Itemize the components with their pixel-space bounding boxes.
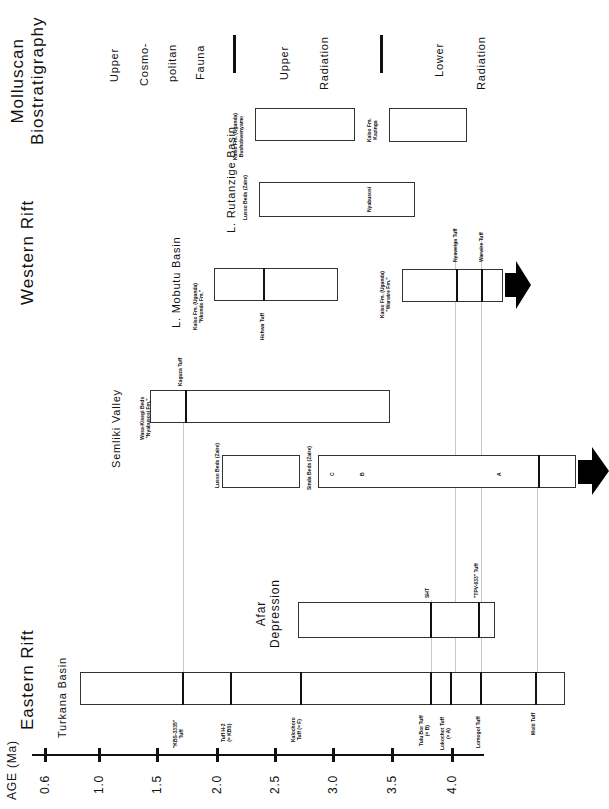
afar-title: Afar Depression bbox=[255, 579, 283, 648]
sinda-continuation-arrow bbox=[578, 460, 592, 484]
zone-boundary-2 bbox=[380, 35, 383, 73]
tick-label: 3.5 bbox=[386, 775, 400, 794]
axis-tick bbox=[216, 748, 219, 762]
rutanzige-lower-label: Kaiso Fm. Kazinga bbox=[367, 118, 379, 142]
marker-kaguza bbox=[185, 390, 187, 423]
semliki-sinda-column: C B A bbox=[318, 455, 576, 488]
marker-lokochot bbox=[450, 672, 452, 705]
marker-tulu-bor bbox=[430, 672, 432, 705]
turkana-label-moiti: Moiti Tuff bbox=[531, 713, 537, 735]
eastern-rift-title: Eastern Rift bbox=[18, 629, 38, 730]
zone-lower-radiation-line1: Lower bbox=[433, 43, 446, 77]
mobutu-lower-label: Kaiso Fm. (Uganda) "Warwire Fm." bbox=[380, 271, 392, 318]
axis-tick bbox=[44, 748, 47, 762]
rutanzige-lusso-label: Lusso Beds (Zaire) bbox=[243, 175, 249, 220]
tick-label: 1.5 bbox=[151, 775, 165, 794]
zone-upper-cosmopolitan-line4: Fauna bbox=[194, 45, 207, 80]
zone-upper-cosmopolitan-line2: Cosmo- bbox=[138, 43, 151, 86]
tick-label: 0.6 bbox=[39, 775, 53, 794]
tick-label: 2.5 bbox=[269, 775, 283, 794]
axis-tick bbox=[391, 748, 394, 762]
rutanzige-lusso-column bbox=[259, 182, 415, 217]
rutanzige-upper-label: Kaiso Fm. (Uganda) Bushobwenyamo bbox=[233, 113, 245, 160]
correlation-line-1.5 bbox=[183, 420, 184, 676]
zone-upper-radiation-line1: Upper bbox=[278, 46, 291, 80]
sinda-letter-b: B bbox=[360, 472, 366, 476]
mobutu-title: L. Mobutu Basin bbox=[170, 237, 183, 329]
turkana-label-tulu-bor: Tulu Bor Tuff (= B) bbox=[419, 715, 431, 746]
semliki-kaguza-label: Kaguza Tuff bbox=[178, 358, 184, 386]
semliki-lusso-column bbox=[222, 455, 300, 488]
axis-tick bbox=[274, 748, 277, 762]
axis-tick bbox=[156, 748, 159, 762]
turkana-label-kbs3335: "KBS-3335" Tuff bbox=[173, 720, 185, 748]
marker-kbs3335 bbox=[182, 672, 184, 705]
tick-label: 2.0 bbox=[211, 775, 225, 794]
axis-tick bbox=[332, 748, 335, 762]
axis-tick bbox=[451, 748, 454, 762]
axis-tick bbox=[98, 748, 101, 762]
marker-lomogol bbox=[480, 672, 482, 705]
marker-tpv033 bbox=[478, 602, 480, 638]
tick-label: 3.0 bbox=[327, 775, 341, 794]
turkana-basin-title: Turkana Basin bbox=[56, 657, 69, 738]
zone-upper-radiation-line2: Radiation bbox=[318, 36, 331, 90]
afar-column bbox=[298, 602, 495, 638]
mobutu-warwire-label: Warwire Tuff bbox=[479, 232, 485, 262]
semliki-wasa-column bbox=[150, 390, 390, 423]
molluscan-title-line2: Biostratigraphy bbox=[28, 17, 48, 145]
mobutu-hohwa-label: Hohwa Tuff bbox=[260, 313, 266, 340]
western-rift-title: Western Rift bbox=[18, 200, 38, 305]
turkana-label-lomogol: Lomogol Tuff bbox=[476, 716, 482, 748]
semliki-title: Semliki Valley bbox=[110, 389, 123, 468]
marker-sht bbox=[430, 602, 432, 638]
marker-nyaweiga bbox=[456, 269, 458, 302]
marker-moiti bbox=[535, 672, 537, 705]
mobutu-upper-label: Kaiso Fm. (Uganda) "Nkondo Fm." bbox=[193, 283, 205, 330]
molluscan-title: Molluscan Biostratigraphy bbox=[8, 17, 47, 145]
marker-hohwa bbox=[263, 268, 265, 301]
tick-label: 1.0 bbox=[93, 775, 107, 794]
semliki-sinda-label: Sinda Beds (Zaire) bbox=[307, 446, 313, 490]
afar-label-sht: SHT bbox=[425, 588, 431, 598]
zone-lower-radiation-line2: Radiation bbox=[475, 36, 488, 90]
turkana-label-kalochoro: Kalochoro Tuff (= F) bbox=[291, 717, 303, 742]
zone-upper-cosmopolitan-line3: politan bbox=[166, 44, 179, 82]
sinda-arrow-head bbox=[592, 447, 609, 495]
zone-upper-cosmopolitan-line1: Upper bbox=[108, 48, 121, 82]
mobutu-lower-column bbox=[402, 269, 503, 302]
turkana-label-lokochot: Lokochot Tuff (= A) bbox=[440, 717, 452, 750]
axis-label: AGE (Ma) bbox=[6, 740, 20, 800]
rutanzige-lower-column bbox=[389, 108, 467, 142]
turkana-label-h2: Tuff H-2 (= KBS) bbox=[221, 723, 233, 742]
sinda-letter-c: C bbox=[330, 472, 336, 476]
marker-kalochoro bbox=[300, 672, 302, 705]
rutanzige-nyabusosi-label: Nyabusosi bbox=[367, 187, 373, 212]
marker-h2 bbox=[230, 672, 232, 705]
molluscan-title-line1: Molluscan bbox=[8, 17, 28, 145]
correlation-line-moiti bbox=[537, 460, 538, 676]
sinda-letter-a: A bbox=[497, 472, 503, 476]
afar-label-tpv033: "TPV-033" Tuff bbox=[474, 563, 480, 598]
semliki-lusso-label: Lusso Beds (Zaire) bbox=[215, 443, 221, 488]
marker-sinda bbox=[538, 455, 540, 488]
rutanzige-upper-column bbox=[255, 108, 355, 141]
mobutu-arrow-head bbox=[516, 261, 531, 309]
stratigraphic-correlation-diagram: AGE (Ma) 0.6 1.0 1.5 2.0 2.5 3.0 3.5 4.0… bbox=[0, 0, 609, 809]
zone-boundary-1 bbox=[233, 35, 236, 73]
tick-label: 4.0 bbox=[446, 775, 460, 794]
mobutu-nyaweiga-label: Nyaweiga Tuff bbox=[453, 228, 459, 262]
turkana-basin-column bbox=[80, 672, 565, 705]
marker-warwire bbox=[481, 269, 483, 302]
mobutu-upper-column bbox=[214, 268, 338, 301]
